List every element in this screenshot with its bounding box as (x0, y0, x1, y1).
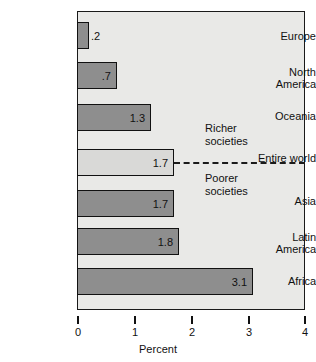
bar-asia: 1.7 (77, 190, 174, 217)
x-axis-label-4: 4 (295, 326, 315, 338)
bar-value-entire-world: 1.7 (153, 157, 168, 168)
category-label-north-america: North America (244, 66, 316, 90)
reference-line-divider (174, 162, 305, 164)
annotation-poorer-societies: Poorer societies (205, 172, 248, 198)
bar-oceania: 1.3 (77, 104, 151, 131)
bar-value-europe: .2 (91, 30, 100, 41)
x-axis-label-1: 1 (125, 326, 145, 338)
x-axis-label-0: 0 (68, 326, 88, 338)
bar-entire-world: 1.7 (77, 149, 174, 176)
bar-africa: 3.1 (77, 268, 253, 295)
category-label-asia: Asia (244, 195, 316, 207)
x-axis-tick-2 (191, 316, 193, 324)
x-axis-tick-3 (248, 316, 250, 324)
bar-value-africa: 3.1 (232, 276, 247, 287)
annotation-richer-societies: Richer societies (205, 122, 248, 148)
x-axis-tick-0 (77, 316, 79, 324)
category-label-oceania: Oceania (244, 110, 316, 122)
bar-value-north-america: .7 (102, 70, 111, 81)
category-label-africa: Africa (244, 275, 316, 287)
bar-value-latin-america: 1.8 (158, 236, 173, 247)
bar-value-oceania: 1.3 (130, 112, 145, 123)
bar-chart-figure: Europe North America Oceania Entire worl… (0, 0, 316, 362)
bar-latin-america: 1.8 (77, 228, 179, 255)
category-label-latin-america: Latin America (244, 231, 316, 255)
x-axis-title: Percent (0, 343, 316, 355)
x-axis-tick-4 (304, 316, 306, 324)
x-axis-tick-1 (134, 316, 136, 324)
bar-europe: .2 (77, 22, 89, 49)
category-label-europe: Europe (244, 30, 316, 42)
x-axis-label-2: 2 (182, 326, 202, 338)
x-axis-label-3: 3 (239, 326, 259, 338)
bar-value-asia: 1.7 (153, 198, 168, 209)
bar-north-america: .7 (77, 62, 117, 89)
